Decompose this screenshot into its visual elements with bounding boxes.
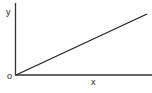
y-axis-label: y [6,7,11,17]
origin-label: o [7,71,12,81]
graph: y x o [0,0,152,93]
x-axis-label: x [91,77,96,87]
data-line [16,14,147,75]
